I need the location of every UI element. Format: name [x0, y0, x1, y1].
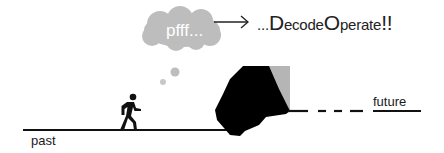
headline-word2-initial: O — [324, 11, 340, 34]
walking-person-icon — [120, 94, 141, 130]
headline-suffix: !! — [381, 11, 392, 34]
thought-bubble-medium — [171, 68, 180, 77]
future-label: future — [373, 94, 406, 109]
thought-bubble-small — [160, 79, 166, 85]
headline-word1-initial: D — [269, 11, 284, 34]
headline-word2-rest: perate — [340, 16, 381, 33]
right-arrow-icon — [214, 16, 248, 28]
past-label: past — [31, 133, 56, 148]
headline-prefix: ... — [257, 16, 269, 33]
thought-text: pfff... — [166, 21, 203, 41]
headline-text: ...DecodeOperate!! — [257, 11, 393, 35]
headline-word1-rest: ecode — [284, 16, 324, 33]
